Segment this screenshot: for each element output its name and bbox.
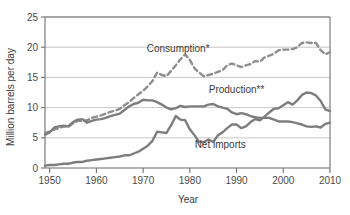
y-tick-label-10: 10 <box>27 102 39 113</box>
y-tick-label-25: 25 <box>27 12 39 23</box>
oil-chart-container: 0510152025 1950196019701980199020002010 … <box>0 0 350 215</box>
x-tick-label-2010: 2010 <box>319 175 342 186</box>
x-axis-title: Year <box>178 194 199 205</box>
x-tick-label-1970: 1970 <box>132 175 155 186</box>
y-axis-title: Million barrels per day <box>5 48 16 146</box>
x-tick-label-2000: 2000 <box>272 175 295 186</box>
y-tick-label-15: 15 <box>27 72 39 83</box>
y-tick-label-20: 20 <box>27 42 39 53</box>
y-tick-label-5: 5 <box>32 132 38 143</box>
x-tick-label-1980: 1980 <box>179 175 202 186</box>
y-tick-label-0: 0 <box>32 163 38 174</box>
series-label-net-imports: Net imports <box>195 139 246 150</box>
oil-supply-line-chart: 0510152025 1950196019701980199020002010 … <box>0 0 350 215</box>
x-tick-label-1950: 1950 <box>39 175 62 186</box>
series-label-production: Production** <box>209 84 265 95</box>
x-tick-label-1990: 1990 <box>225 175 248 186</box>
x-tick-label-1960: 1960 <box>85 175 108 186</box>
series-label-consumption: Consumption* <box>147 43 210 54</box>
